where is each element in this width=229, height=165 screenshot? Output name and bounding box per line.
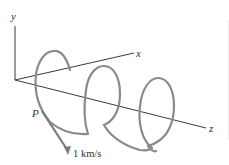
y-axis-label: y [10,10,16,22]
z-axis-label: z [208,122,214,134]
x-axis-label: x [135,47,141,59]
point-p-label: P [31,107,39,119]
helix-diagram: y x z P 1 km/s [0,0,229,165]
velocity-label: 1 km/s [73,148,101,159]
velocity-arrowhead-icon [64,146,71,155]
helix-loop-1 [36,51,88,134]
helix-loop-2 [85,66,152,150]
